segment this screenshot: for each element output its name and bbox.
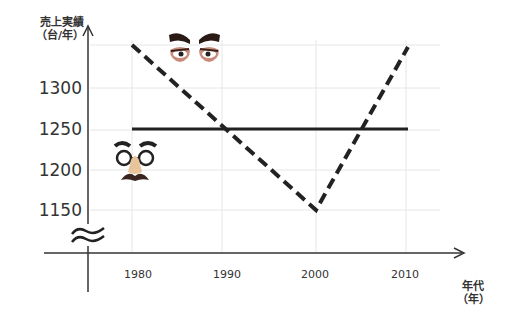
y-axis-title: 売上実績 （台/年）	[24, 16, 84, 42]
y-axis-title-line2: （台/年）	[24, 29, 84, 42]
axis-break-icon	[70, 224, 110, 246]
y-axis	[83, 26, 93, 292]
angry-eyes-icon	[169, 33, 220, 62]
y-tick-1200: 1200	[22, 160, 82, 180]
x-axis	[44, 248, 464, 258]
x-tick-1990: 1990	[207, 268, 247, 281]
x-axis-title: 年代 （年）	[448, 280, 498, 306]
x-tick-2010: 2010	[385, 268, 425, 281]
disguise-glasses-icon	[115, 143, 156, 181]
y-axis-title-line1: 売上実績	[24, 16, 84, 29]
x-axis-title-line2: （年）	[448, 293, 498, 306]
x-tick-2000: 2000	[295, 268, 335, 281]
x-tick-1980: 1980	[118, 268, 158, 281]
x-axis-title-line1: 年代	[448, 280, 498, 293]
y-tick-1300: 1300	[22, 78, 82, 98]
y-tick-1250: 1250	[22, 119, 82, 139]
y-tick-1150: 1150	[22, 200, 82, 220]
